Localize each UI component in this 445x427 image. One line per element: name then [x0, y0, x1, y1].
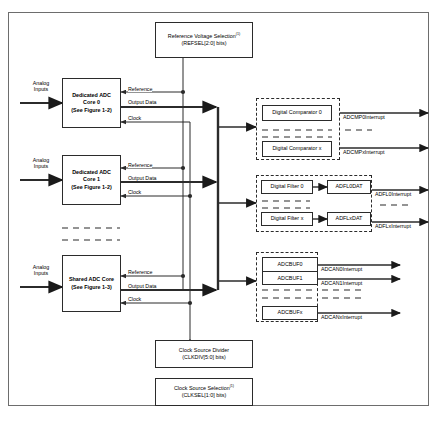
digital-filter-0-label: Digital Filter 0 — [271, 183, 304, 190]
signal-output-data-1: Output Data — [128, 175, 157, 181]
core-1-line1: Dedicated ADC — [72, 169, 111, 176]
core-1-figure-ref: (See Figure 1-2) — [71, 184, 111, 191]
adcan1-interrupt-label: ADCAN1Interrupt — [321, 280, 362, 286]
core-0-line1: Dedicated ADC — [72, 92, 111, 99]
adfl0-interrupt-label: ADFL0Interrupt — [375, 191, 411, 197]
adcmp0-interrupt-label: ADCMP0Interrupt — [343, 114, 385, 120]
core-1-line2: Core 1 — [83, 176, 100, 183]
dedicated-adc-core-1[interactable]: Dedicated ADC Core 1 (See Figure 1-2) — [62, 155, 121, 205]
adcbuf1-cell[interactable]: ADCBUF1 — [263, 271, 317, 285]
signal-reference-shared: Reference — [128, 269, 152, 275]
reference-voltage-selection-block[interactable]: Reference Voltage Selection(1) (REFSEL[2… — [155, 22, 253, 58]
footnote-marker-clksel: (1) — [230, 384, 234, 388]
adfl0dat-register[interactable]: ADFL0DAT — [327, 180, 371, 194]
refsel-bits: (REFSEL[2:0] bits) — [182, 40, 227, 47]
core-0-line2: Core 0 — [83, 99, 100, 106]
adflx-interrupt-label: ADFLxInterrupt — [375, 223, 411, 229]
shared-core-line1: Shared ADC Core — [69, 276, 114, 283]
adcbufx-label: ADCBUFx — [278, 309, 303, 316]
clkdiv-bits: (CLKDIV[5:0] bits) — [182, 354, 225, 361]
signal-clock-shared: Clock — [128, 296, 141, 302]
digital-filter-0[interactable]: Digital Filter 0 — [261, 180, 313, 194]
digital-comparator-0[interactable]: Digital Comparator 0 — [262, 105, 332, 121]
adflxdat-label: ADFLxDAT — [336, 215, 363, 222]
dedicated-adc-core-0[interactable]: Dedicated ADC Core 0 (See Figure 1-2) — [62, 78, 121, 128]
digital-filter-x[interactable]: Digital Filter x — [261, 212, 313, 226]
digital-comparator-x[interactable]: Digital Comparator x — [262, 141, 332, 157]
analog-inputs-label-1: AnalogInputs — [20, 157, 62, 169]
digital-comparator-0-label: Digital Comparator 0 — [272, 109, 321, 116]
clock-source-divider-block[interactable]: Clock Source Divider (CLKDIV[5:0] bits) — [155, 340, 253, 368]
core-0-figure-ref: (See Figure 1-2) — [71, 107, 111, 114]
digital-comparator-x-label: Digital Comparator x — [272, 145, 321, 152]
adcbuf-stack-0-1[interactable]: ADCBUF0 ADCBUF1 — [262, 257, 318, 285]
signal-reference-0: Reference — [128, 86, 152, 92]
signal-clock-1: Clock — [128, 189, 141, 195]
analog-inputs-label-shared: AnalogInputs — [20, 264, 62, 276]
adfl0dat-label: ADFL0DAT — [335, 183, 362, 190]
signal-output-data-0: Output Data — [128, 99, 157, 105]
adcmpx-interrupt-label: ADCMPxInterrupt — [343, 149, 385, 155]
footnote-marker-refsel: (1) — [236, 32, 240, 36]
adflxdat-register[interactable]: ADFLxDAT — [327, 212, 371, 226]
digital-filter-x-label: Digital Filter x — [271, 215, 304, 222]
adcbuf0-cell[interactable]: ADCBUF0 — [263, 258, 317, 271]
analog-inputs-label-0: AnalogInputs — [20, 80, 62, 92]
adcbufx-register[interactable]: ADCBUFx — [262, 306, 318, 320]
clksel-bits: (CLKSEL[1:0] bits) — [182, 392, 227, 399]
clkdiv-line1: Clock Source Divider — [179, 347, 229, 354]
signal-clock-0: Clock — [128, 115, 141, 121]
adc-block-diagram: AnalogInputs AnalogInputs AnalogInputs D… — [0, 0, 445, 427]
signal-output-data-shared: Output Data — [128, 283, 157, 289]
adcanx-interrupt-label: ADCANxInterrupt — [321, 314, 362, 320]
refsel-line1: Reference Voltage Selection(1) — [168, 32, 240, 40]
clock-source-selection-block[interactable]: Clock Source Selection(1) (CLKSEL[1:0] b… — [155, 378, 253, 406]
shared-core-figure-ref: (See Figure 1-3) — [71, 284, 111, 291]
adcan0-interrupt-label: ADCAN0Interrupt — [321, 266, 362, 272]
shared-adc-core[interactable]: Shared ADC Core (See Figure 1-3) — [62, 255, 121, 312]
signal-reference-1: Reference — [128, 162, 152, 168]
clksel-line1: Clock Source Selection(1) — [174, 384, 234, 392]
